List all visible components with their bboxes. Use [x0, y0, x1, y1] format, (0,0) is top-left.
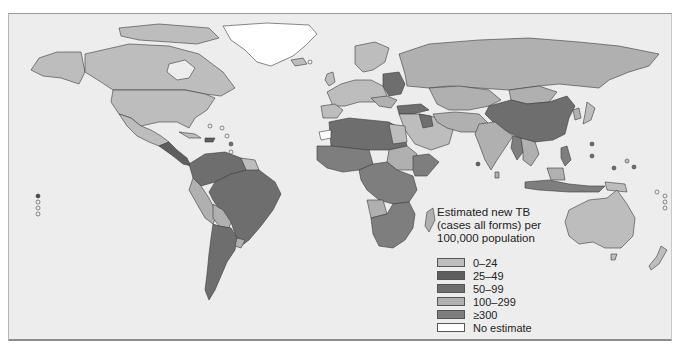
region-korea — [573, 108, 581, 120]
region-eastern-europe — [383, 72, 405, 96]
island-marker — [625, 159, 629, 163]
island-marker — [590, 154, 594, 158]
region-japan — [583, 102, 595, 124]
map-legend: Estimated new TB (cases all forms) per 1… — [437, 206, 567, 334]
island-marker — [663, 200, 667, 204]
island-marker — [590, 142, 594, 146]
legend-item-no-estimate: No estimate — [437, 321, 567, 334]
island-marker — [225, 134, 229, 138]
region-russia — [399, 38, 659, 90]
legend-label: 0–24 — [473, 257, 497, 269]
legend-title-line: (cases all forms) per — [437, 219, 567, 232]
island-marker — [612, 166, 616, 170]
legend-swatch — [437, 271, 465, 280]
legend-title-line: Estimated new TB — [437, 206, 567, 219]
region-scandinavia — [355, 42, 389, 72]
legend-title-line: 100,000 population — [437, 232, 567, 245]
region-horn-africa — [413, 154, 439, 176]
legend-item-0-24: 0–24 — [437, 256, 567, 269]
region-uruguay — [235, 238, 245, 248]
region-borneo — [547, 168, 565, 180]
legend-label: 100–299 — [473, 296, 516, 308]
legend-item-50-99: 50–99 — [437, 282, 567, 295]
region-argentina — [205, 224, 237, 300]
island-marker — [36, 206, 40, 210]
legend-swatch — [437, 284, 465, 293]
region-arctic-islands — [119, 24, 219, 44]
island-marker — [208, 124, 212, 128]
region-new-zealand — [649, 246, 667, 270]
island-marker — [663, 194, 667, 198]
island-marker — [36, 200, 40, 204]
island-marker — [308, 60, 312, 64]
island-marker — [229, 150, 233, 154]
tb-incidence-world-map: Estimated new TB (cases all forms) per 1… — [8, 13, 672, 341]
region-thailand-indochina — [521, 138, 539, 166]
region-philippines — [561, 146, 571, 166]
island-marker — [655, 190, 659, 194]
legend-swatch — [437, 310, 465, 319]
island-marker — [220, 126, 224, 130]
region-turkey — [397, 104, 429, 114]
region-iceland — [291, 58, 307, 66]
legend-label: 25–49 — [473, 270, 504, 282]
legend-label: 50–99 — [473, 283, 504, 295]
region-central-america — [159, 142, 191, 166]
world-map-svg — [9, 14, 672, 341]
legend-title: Estimated new TB (cases all forms) per 1… — [437, 206, 567, 245]
region-hispaniola — [205, 138, 215, 142]
region-cuba — [179, 132, 201, 138]
region-tasmania — [611, 254, 617, 260]
region-indonesia — [525, 180, 605, 192]
region-canada — [85, 44, 235, 96]
legend-label: No estimate — [473, 322, 532, 334]
region-sri-lanka — [495, 172, 499, 178]
legend-swatch — [437, 297, 465, 306]
legend-item-100-299: 100–299 — [437, 295, 567, 308]
region-balkans — [371, 96, 397, 108]
region-uk — [325, 72, 335, 86]
legend-swatch — [437, 258, 465, 267]
island-marker — [229, 142, 233, 146]
region-madagascar — [425, 208, 435, 232]
legend-item-300-plus: ≥300 — [437, 308, 567, 321]
region-australia — [565, 190, 635, 248]
legend-label: ≥300 — [473, 309, 497, 321]
region-western-sahara — [319, 130, 331, 140]
island-marker — [632, 165, 636, 169]
island-marker — [476, 162, 480, 166]
island-marker — [663, 206, 667, 210]
legend-item-25-49: 25–49 — [437, 269, 567, 282]
legend-swatch — [437, 323, 465, 332]
island-marker — [36, 212, 40, 216]
island-marker — [36, 194, 40, 198]
region-alaska — [31, 52, 85, 84]
